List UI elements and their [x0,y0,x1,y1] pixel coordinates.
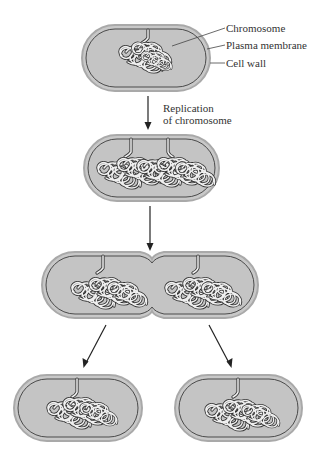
arrow-line [87,325,106,361]
arrow-head-icon [145,122,152,130]
replication-label-line2: of chromosome [163,114,232,126]
binary-fission-diagram: Chromosome Plasma membrane Cell wall Rep… [0,0,324,457]
daughter-cell-left [14,375,142,441]
dividing-cell [42,252,258,318]
parent-cell [82,25,210,91]
arrow-line [209,325,228,361]
replication-arrow: Replication of chromosome [145,96,232,130]
replicated-cell [84,135,219,201]
replication-label-line1: Replication [163,102,214,114]
cell-wall-label: Cell wall [226,57,266,69]
split-arrow-right [209,325,233,368]
chromosome-label: Chromosome [226,22,285,34]
daughter-cell-right [175,375,302,441]
division-arrow [147,206,154,251]
plasma-membrane-leader-line [207,45,225,49]
split-arrow-left [83,325,107,368]
plasma-membrane-label: Plasma membrane [226,39,307,51]
arrow-head-icon [147,243,154,251]
